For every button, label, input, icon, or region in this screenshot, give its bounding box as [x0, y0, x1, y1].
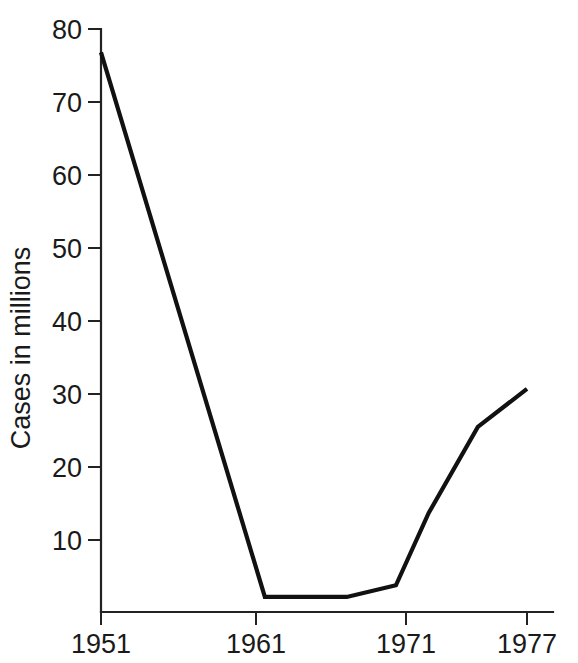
x-tick-label-1961: 1961 — [226, 629, 286, 659]
y-tick-label-50: 50 — [52, 234, 82, 264]
y-tick-label-40: 40 — [52, 307, 82, 337]
x-tick-label-1977: 1977 — [497, 629, 557, 659]
y-tick-label-80: 80 — [52, 15, 82, 45]
y-tick-label-60: 60 — [52, 161, 82, 191]
y-axis-title: Cases in millions — [6, 247, 36, 450]
y-tick-label-70: 70 — [52, 88, 82, 118]
x-tick-label-1951: 1951 — [71, 629, 131, 659]
chart-canvas: 80 70 60 50 40 30 20 10 1951 1961 1971 1… — [0, 0, 578, 663]
chart-background — [0, 0, 578, 663]
y-tick-label-30: 30 — [52, 380, 82, 410]
x-tick-label-1971: 1971 — [376, 629, 436, 659]
line-chart: 80 70 60 50 40 30 20 10 1951 1961 1971 1… — [0, 0, 578, 663]
y-tick-label-10: 10 — [52, 526, 82, 556]
y-tick-label-20: 20 — [52, 453, 82, 483]
